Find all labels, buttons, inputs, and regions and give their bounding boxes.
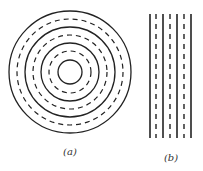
- solid-ring-2: [25, 27, 115, 117]
- panel-a-concentric-circles: [9, 11, 131, 133]
- panel-a-label: (a): [63, 146, 77, 157]
- solid-ring-0: [9, 11, 131, 133]
- dashed-ring-5: [49, 51, 91, 93]
- solid-ring-6: [58, 60, 82, 84]
- figure-canvas: (a) (b): [0, 0, 203, 171]
- panel-b-label: (b): [164, 152, 178, 163]
- panel-b-parallel-lines: [150, 14, 191, 138]
- dashed-ring-3: [33, 35, 107, 109]
- solid-ring-4: [41, 43, 99, 101]
